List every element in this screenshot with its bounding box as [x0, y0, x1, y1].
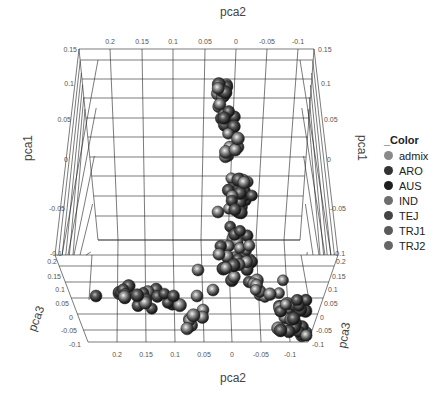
legend-label: AUS — [399, 180, 422, 192]
svg-text:-0.05: -0.05 — [330, 205, 346, 212]
svg-text:0.1: 0.1 — [64, 80, 74, 87]
legend-label: TRJ2 — [399, 240, 425, 252]
svg-text:0.05: 0.05 — [197, 351, 211, 358]
legend-item-trj1: TRJ1 — [384, 223, 428, 238]
svg-text:-0.05: -0.05 — [316, 327, 332, 334]
svg-text:0.1: 0.1 — [321, 80, 331, 87]
legend-label: TRJ1 — [399, 225, 425, 237]
legend-marker-icon — [384, 196, 393, 205]
svg-text:0.2: 0.2 — [112, 351, 122, 358]
axis-title-pca2-top: pca2 — [220, 5, 246, 19]
legend-label: ARO — [399, 165, 423, 177]
svg-text:0.05: 0.05 — [324, 116, 338, 123]
legend-item-tej: TEJ — [384, 208, 428, 223]
svg-text:-0.05: -0.05 — [259, 38, 275, 45]
legend-label: IND — [399, 195, 418, 207]
legend: _Color admixAROAUSINDTEJTRJ1TRJ2 — [384, 134, 428, 253]
legend-marker-icon — [384, 151, 393, 160]
svg-text:0.2: 0.2 — [336, 258, 346, 265]
legend-label: admix — [399, 150, 428, 162]
svg-text:0.05: 0.05 — [198, 38, 212, 45]
svg-text:0.1: 0.1 — [55, 286, 65, 293]
legend-label: TEJ — [399, 210, 419, 222]
svg-text:0: 0 — [230, 351, 234, 358]
svg-text:-0.05: -0.05 — [49, 205, 65, 212]
legend-marker-icon — [384, 166, 393, 175]
legend-item-aus: AUS — [384, 178, 428, 193]
svg-text:0.05: 0.05 — [324, 300, 338, 307]
svg-text:0.2: 0.2 — [47, 258, 57, 265]
legend-marker-icon — [384, 241, 393, 250]
svg-text:0.2: 0.2 — [105, 38, 115, 45]
svg-text:0: 0 — [234, 38, 238, 45]
legend-marker-icon — [384, 211, 393, 220]
axis-title-pca1-right: pca1 — [355, 135, 369, 161]
legend-item-admix: admix — [384, 148, 428, 163]
svg-text:-0.1: -0.1 — [50, 250, 62, 257]
svg-text:0.15: 0.15 — [332, 273, 346, 280]
svg-text:0.1: 0.1 — [170, 351, 180, 358]
legend-marker-icon — [384, 226, 393, 235]
data-points — [90, 78, 312, 342]
svg-text:0.15: 0.15 — [139, 351, 153, 358]
axis-title-pca3-right: pca3 — [335, 321, 353, 349]
svg-text:-0.1: -0.1 — [69, 341, 81, 348]
legend-item-aro: ARO — [384, 163, 428, 178]
svg-text:-0.1: -0.1 — [312, 341, 324, 348]
svg-text:0: 0 — [327, 156, 331, 163]
pca-3d-scatter[interactable]: 0.20.150.10.050-0.05-0.10.20.150.10.050-… — [0, 0, 446, 400]
legend-item-trj2: TRJ2 — [384, 238, 428, 253]
svg-text:0: 0 — [64, 156, 68, 163]
axis-title-pca2-bottom: pca2 — [220, 371, 246, 385]
svg-text:-0.05: -0.05 — [253, 351, 269, 358]
axis-title-pca3-left: pca3 — [25, 304, 47, 334]
svg-text:0.15: 0.15 — [63, 46, 77, 53]
svg-text:0: 0 — [320, 314, 324, 321]
legend-item-ind: IND — [384, 193, 428, 208]
legend-title: _Color — [384, 134, 428, 146]
svg-text:0.1: 0.1 — [168, 38, 178, 45]
svg-text:0.15: 0.15 — [318, 46, 332, 53]
svg-text:0.15: 0.15 — [47, 273, 61, 280]
legend-marker-icon — [384, 181, 393, 190]
svg-text:0: 0 — [69, 314, 73, 321]
svg-text:-0.1: -0.1 — [333, 250, 345, 257]
svg-text:0.05: 0.05 — [57, 116, 71, 123]
svg-text:-0.05: -0.05 — [61, 327, 77, 334]
svg-text:-0.1: -0.1 — [284, 351, 296, 358]
svg-text:0.05: 0.05 — [55, 300, 69, 307]
svg-text:-0.1: -0.1 — [292, 38, 304, 45]
svg-text:0.15: 0.15 — [135, 38, 149, 45]
svg-text:0.1: 0.1 — [328, 286, 338, 293]
axis-title-pca1-left: pca1 — [21, 135, 35, 161]
